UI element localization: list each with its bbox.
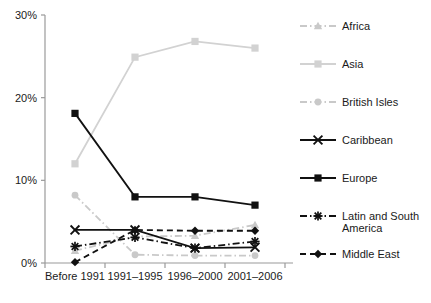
- legend-label: Latin and South: [342, 210, 419, 222]
- series-caribbean: [71, 226, 260, 253]
- data-point-asterisk: [250, 237, 259, 246]
- data-point-square: [191, 193, 198, 200]
- data-point-square: [191, 38, 198, 45]
- legend-item-asia[interactable]: Asia: [300, 58, 364, 70]
- chart-canvas: 0%10%20%30% Before 19911991–19951996–200…: [0, 0, 431, 303]
- x-tick-label: 2001–2006: [227, 270, 282, 282]
- series-line: [75, 230, 255, 248]
- y-axis: 0%10%20%30%: [15, 9, 45, 269]
- legend-label: Caribbean: [342, 134, 393, 146]
- series-line: [75, 113, 255, 205]
- data-point-circle: [132, 251, 139, 258]
- data-point-asterisk: [70, 242, 79, 251]
- legend-item-latin-and-south-america[interactable]: Latin and SouthAmerica: [300, 210, 419, 234]
- legend-item-africa[interactable]: Africa: [300, 20, 371, 32]
- x-tick-label: Before 1991: [45, 270, 105, 282]
- data-point-square: [314, 60, 321, 67]
- legend: AfricaAsiaBritish IslesCaribbeanEuropeLa…: [300, 20, 419, 260]
- y-tick-label: 20%: [15, 92, 37, 104]
- x-tick-label: 1996–2000: [167, 270, 222, 282]
- plot-area-series: [70, 38, 259, 267]
- data-point-square: [71, 160, 78, 167]
- data-point-square: [131, 54, 138, 61]
- data-point-square: [251, 202, 258, 209]
- y-tick-label: 0%: [21, 257, 37, 269]
- legend-item-caribbean[interactable]: Caribbean: [300, 134, 393, 146]
- legend-label: Africa: [342, 20, 371, 32]
- data-point-square: [251, 44, 258, 51]
- data-point-asterisk: [313, 211, 322, 220]
- data-point-square: [131, 193, 138, 200]
- series-middle-east: [71, 226, 259, 267]
- legend-label: Middle East: [342, 248, 399, 260]
- legend-item-europe[interactable]: Europe: [300, 172, 377, 184]
- data-point-asterisk: [130, 233, 139, 242]
- data-point-circle: [72, 192, 79, 199]
- series-line: [75, 195, 255, 255]
- data-point-circle: [315, 99, 322, 106]
- data-point-square: [314, 174, 321, 181]
- data-point-asterisk: [190, 244, 199, 253]
- data-point-square: [71, 110, 78, 117]
- data-point-diamond: [314, 250, 322, 258]
- y-tick-label: 30%: [15, 9, 37, 21]
- series-europe: [71, 110, 258, 209]
- series-line: [75, 230, 255, 262]
- series-line: [75, 41, 255, 163]
- x-tick-label: 1991–1995: [107, 270, 162, 282]
- data-point-circle: [252, 252, 259, 259]
- legend-label: British Isles: [342, 96, 399, 108]
- x-axis: Before 19911991–19951996–20002001–2006: [45, 263, 293, 282]
- legend-label-line2: America: [342, 222, 383, 234]
- legend-item-middle-east[interactable]: Middle East: [300, 248, 399, 260]
- data-point-diamond: [191, 227, 199, 235]
- legend-label: Asia: [342, 58, 364, 70]
- line-chart: 0%10%20%30% Before 19911991–19951996–200…: [0, 0, 431, 303]
- legend-label: Europe: [342, 172, 377, 184]
- legend-item-british-isles[interactable]: British Isles: [300, 96, 399, 108]
- y-tick-label: 10%: [15, 174, 37, 186]
- data-point-diamond: [71, 258, 79, 266]
- series-africa: [71, 221, 259, 254]
- data-point-circle: [192, 252, 199, 259]
